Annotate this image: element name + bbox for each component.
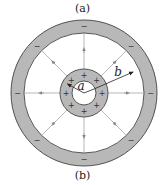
negative-charge-icon: − xyxy=(14,89,21,98)
caption-b: (b) xyxy=(0,169,165,182)
positive-charge-icon: + xyxy=(68,76,75,85)
positive-charge-icon: + xyxy=(99,89,106,98)
positive-charge-icon: + xyxy=(93,76,100,85)
negative-charge-icon: − xyxy=(81,155,88,164)
negative-charge-icon: − xyxy=(34,42,41,51)
negative-charge-icon: − xyxy=(147,89,154,98)
label-a: a xyxy=(77,79,84,93)
positive-charge-icon: + xyxy=(93,101,100,110)
negative-charge-icon: − xyxy=(34,136,41,145)
negative-charge-icon: − xyxy=(128,42,135,51)
negative-charge-icon: − xyxy=(128,136,135,145)
positive-charge-icon: + xyxy=(63,89,70,98)
label-b: b xyxy=(114,65,122,79)
concentric-shells-diagram: − − − − − − − − + + + + + + + + a b xyxy=(0,0,165,185)
negative-charge-icon: − xyxy=(81,22,88,31)
positive-charge-icon: + xyxy=(68,101,75,110)
positive-charge-icon: + xyxy=(81,107,88,116)
